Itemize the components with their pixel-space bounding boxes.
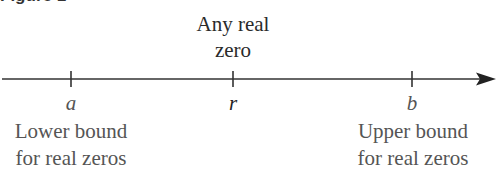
any-real-zero-line1: Any real (197, 14, 270, 35)
symbol-a: a (66, 93, 77, 114)
upper-bound-line2: for real zeros (358, 148, 469, 169)
any-real-zero-line2: zero (215, 40, 251, 61)
upper-bound-line1: Upper bound (358, 121, 468, 142)
symbol-r: r (229, 93, 237, 114)
lower-bound-line1: Lower bound (15, 121, 128, 142)
lower-bound-line2: for real zeros (16, 148, 127, 169)
symbol-b: b (407, 93, 418, 114)
